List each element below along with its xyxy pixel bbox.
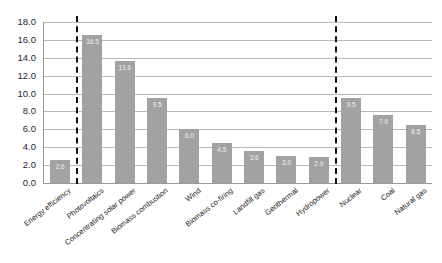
y-axis-tick-label: 0.0 <box>23 178 36 188</box>
bar-value-label: 3.6 <box>250 154 259 161</box>
bar-slot: 2.6 <box>44 22 76 183</box>
bar-value-label: 2.9 <box>314 160 323 167</box>
x-axis-category-label-text: Energy efficiency <box>22 186 72 228</box>
x-axis-category-label: Nuclear <box>338 186 364 209</box>
y-axis-tick-label: 6.0 <box>23 124 36 134</box>
bar-value-label: 7.6 <box>379 118 388 125</box>
y-axis-tick-labels: 0.02.04.06.08.010.012.014.016.018.0 <box>0 22 40 183</box>
x-axis-category-label-text: Natural gas <box>393 186 429 217</box>
bar[interactable]: 2.6 <box>50 160 70 183</box>
group-divider <box>335 16 337 184</box>
bar-slot: 2.9 <box>303 22 335 183</box>
bar-series: 2.616.513.69.56.04.53.63.02.99.57.66.5 <box>44 22 432 183</box>
bar[interactable]: 16.5 <box>82 35 102 183</box>
x-axis-category-label: Biomass combustion <box>110 186 170 236</box>
bar-slot: 3.0 <box>270 22 302 183</box>
bar-chart: 0.02.04.06.08.010.012.014.016.018.0 2.61… <box>0 0 442 263</box>
bar-slot: 6.0 <box>173 22 205 183</box>
y-axis-tick-label: 16.0 <box>18 35 37 45</box>
bar[interactable]: 6.5 <box>406 125 426 183</box>
x-axis-category-label-text: Coal <box>378 186 396 203</box>
x-axis-category-label: Natural gas <box>393 186 429 217</box>
bar-value-label: 9.5 <box>153 101 162 108</box>
bar-value-label: 6.5 <box>411 128 420 135</box>
y-axis-tick-label: 12.0 <box>18 71 37 81</box>
bar-slot: 3.6 <box>238 22 270 183</box>
y-axis-tick-label: 14.0 <box>18 53 37 63</box>
bar[interactable]: 7.6 <box>373 115 393 183</box>
x-axis-category-label-text: Landfill gas <box>231 186 266 216</box>
bar[interactable]: 4.5 <box>212 143 232 183</box>
bar-slot: 6.5 <box>400 22 432 183</box>
bar-slot: 9.5 <box>141 22 173 183</box>
group-divider <box>76 16 78 184</box>
bar[interactable]: 3.0 <box>276 156 296 183</box>
gridline <box>44 183 432 184</box>
x-axis-category-label: Hydropower <box>294 186 331 218</box>
x-axis-category-label-text: Geothermal <box>263 186 299 217</box>
x-axis-category-label: Landfill gas <box>231 186 266 216</box>
bar-value-label: 4.5 <box>217 146 226 153</box>
x-axis-category-label: Energy efficiency <box>22 186 72 228</box>
bar-value-label: 3.0 <box>282 159 291 166</box>
bar-value-label: 2.6 <box>56 163 65 170</box>
y-axis-tick-label: 8.0 <box>23 106 36 116</box>
bar[interactable]: 9.5 <box>147 98 167 183</box>
x-axis-category-labels: Energy efficiencyPhotovoltaicsConcentrat… <box>44 186 432 263</box>
bar-value-label: 9.5 <box>347 101 356 108</box>
y-axis-tick-label: 4.0 <box>23 142 36 152</box>
bar-value-label: 6.0 <box>185 132 194 139</box>
bar-value-label: 16.5 <box>86 38 99 45</box>
x-axis-category-label-text: Hydropower <box>294 186 331 218</box>
bar-slot: 16.5 <box>76 22 108 183</box>
y-axis-tick-label: 10.0 <box>18 89 37 99</box>
x-axis-category-label: Coal <box>378 186 396 203</box>
bar-slot: 4.5 <box>206 22 238 183</box>
bar-slot: 13.6 <box>109 22 141 183</box>
bar[interactable]: 9.5 <box>341 98 361 183</box>
x-axis-category-label-text: Wind <box>183 186 202 204</box>
plot-area: 2.616.513.69.56.04.53.63.02.99.57.66.5 <box>44 22 432 183</box>
x-axis-category-label-text: Biomass combustion <box>110 186 170 236</box>
bar[interactable]: 2.9 <box>309 157 329 183</box>
bar[interactable]: 6.0 <box>179 129 199 183</box>
bar[interactable]: 3.6 <box>244 151 264 183</box>
y-axis-tick-label: 2.0 <box>23 160 36 170</box>
bar-slot: 7.6 <box>367 22 399 183</box>
x-axis-category-label: Geothermal <box>263 186 299 217</box>
y-axis-tick-label: 18.0 <box>18 17 37 27</box>
bar-value-label: 13.6 <box>118 64 131 71</box>
bar[interactable]: 13.6 <box>115 61 135 183</box>
x-axis-category-label: Wind <box>183 186 202 204</box>
x-axis-category-label-text: Nuclear <box>338 186 364 209</box>
bar-slot: 9.5 <box>335 22 367 183</box>
